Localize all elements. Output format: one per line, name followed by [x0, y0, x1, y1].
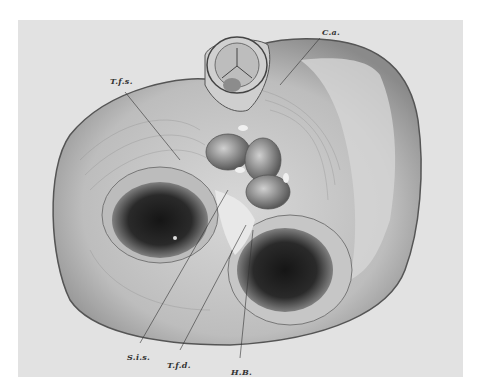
heart-illustration: [0, 0, 484, 392]
label-tfd: T.f.d.: [167, 360, 191, 370]
label-hb: H.B.: [231, 367, 252, 377]
label-ca: C.a.: [322, 27, 340, 37]
label-sis: S.i.s.: [127, 352, 150, 362]
label-tfs: T.f.s.: [110, 76, 133, 86]
